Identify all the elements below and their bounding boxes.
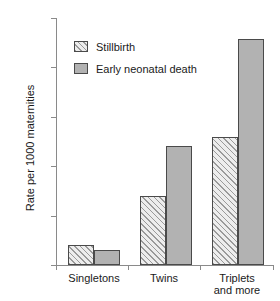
bar-chart: 50 40 30 20 10 0 Rate per 1000 materniti… — [0, 0, 280, 301]
bar-triplets-early-neonatal-death — [238, 39, 264, 265]
y-axis-tick-10 — [51, 216, 57, 217]
legend-item-stillbirth: Stillbirth — [74, 38, 197, 55]
y-axis-tick-40 — [51, 67, 57, 68]
x-axis-tick-end — [273, 265, 274, 270]
bar-twins-stillbirth — [140, 196, 166, 265]
y-axis-tick-30 — [51, 117, 57, 118]
x-axis-tick-group-2 — [200, 265, 201, 270]
bar-singletons-stillbirth — [68, 245, 94, 265]
hatched-swatch-icon — [74, 41, 88, 52]
legend-item-early-neonatal-death: Early neonatal death — [74, 60, 197, 77]
bar-triplets-stillbirth — [212, 137, 238, 265]
x-axis-tick-group-1 — [128, 265, 129, 270]
y-axis-tick-20 — [51, 166, 57, 167]
x-axis-category-triplets-line2: and more — [185, 284, 280, 296]
bar-twins-early-neonatal-death — [166, 146, 192, 265]
legend-label-stillbirth: Stillbirth — [96, 41, 135, 53]
y-axis-line — [56, 18, 57, 266]
legend-label-early-neonatal-death: Early neonatal death — [96, 63, 197, 75]
x-axis-tick-start — [56, 265, 57, 270]
x-axis-category-triplets-line1: Triplets — [219, 272, 255, 284]
x-axis-category-twins-line1: Twins — [150, 272, 178, 284]
x-axis-line — [56, 265, 274, 266]
bar-singletons-early-neonatal-death — [94, 250, 120, 265]
solid-gray-swatch-icon — [74, 63, 88, 74]
chart-legend: Stillbirth Early neonatal death — [74, 38, 197, 82]
y-axis-tick-50 — [51, 18, 57, 19]
y-axis-title: Rate per 1000 maternities — [24, 58, 36, 238]
x-axis-category-triplets: Triplets and more — [185, 272, 280, 296]
